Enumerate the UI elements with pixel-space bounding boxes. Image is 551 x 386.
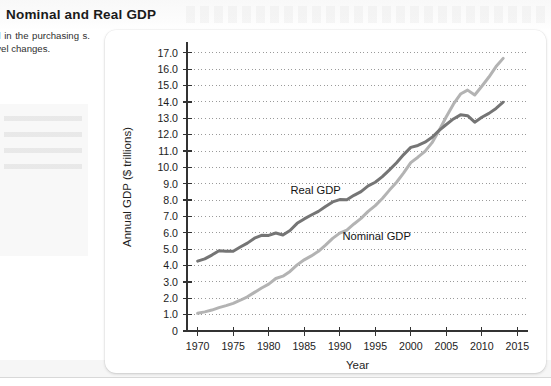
y-axis-tick-label: 14.0 [157, 96, 178, 108]
series-line-nominal-gdp [198, 58, 503, 313]
x-axis-tick-label: 1990 [328, 340, 352, 352]
y-axis-tick-label: 5.0 [163, 243, 178, 255]
y-axis-tick-label: 11.0 [158, 145, 178, 157]
page-ghost-text-artifact [186, 6, 546, 23]
page-left-bleed-lines [4, 116, 82, 176]
y-axis-tick-label: 17.0 [157, 47, 178, 59]
y-axis-tick-label: 9.0 [163, 178, 178, 190]
y-axis-tick-label: 6.0 [163, 227, 178, 239]
chart-card: 01.02.03.04.05.06.07.08.09.010.011.012.0… [105, 30, 546, 373]
y-axis-tick-label: 7.0 [163, 210, 178, 222]
chart-plot-area: 01.02.03.04.05.06.07.08.09.010.011.012.0… [105, 30, 546, 373]
x-axis-tick-label: 2000 [399, 340, 423, 352]
y-axis-tick-label: 4.0 [163, 259, 178, 271]
y-axis-tick-label: 10.0 [157, 161, 178, 173]
y-axis-tick-label: 12.0 [157, 128, 178, 140]
x-axis-tick-label: 1985 [292, 340, 316, 352]
x-axis-tick-label: 2015 [506, 340, 530, 352]
series-label-nominal-gdp: Nominal GDP [342, 230, 410, 242]
y-axis-tick-label: 0 [172, 325, 178, 337]
x-axis-tick-label: 1995 [363, 340, 387, 352]
x-axis-title: Year [346, 359, 369, 371]
page-root: Nominal and Real GDP minal and real GDP.… [0, 0, 551, 386]
y-axis-tick-label: 8.0 [163, 194, 178, 206]
y-axis-tick-label: 1.0 [163, 308, 178, 320]
caption-source: ommerce. [0, 66, 90, 76]
x-axis-tick-label: 2010 [470, 340, 494, 352]
x-axis-tick-label: 1975 [221, 340, 245, 352]
y-axis-tick-label: 3.0 [163, 276, 178, 288]
series-label-real-gdp: Real GDP [290, 184, 340, 196]
x-axis-tick-label: 1980 [257, 340, 281, 352]
x-axis-tick-label: 1970 [186, 340, 210, 352]
caption-text: minal and real GDP. d in the purchasing … [0, 29, 90, 55]
page-bottom-rule [0, 377, 551, 378]
y-axis-title: Annual GDP ($ trillions) [121, 127, 133, 247]
gdp-line-chart: 01.02.03.04.05.06.07.08.09.010.011.012.0… [105, 30, 546, 373]
y-axis-tick-label: 15.0 [157, 79, 178, 91]
caption-column: minal and real GDP. d in the purchasing … [0, 29, 90, 76]
y-axis-tick-label: 13.0 [157, 112, 178, 124]
y-axis-tick-label: 2.0 [163, 292, 178, 304]
exhibit-title: Nominal and Real GDP [6, 7, 156, 22]
y-axis-tick-label: 16.0 [157, 63, 178, 75]
x-axis-tick-label: 2005 [435, 340, 459, 352]
